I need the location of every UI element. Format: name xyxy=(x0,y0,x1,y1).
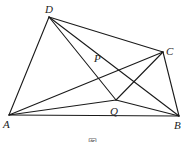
label-Q: Q xyxy=(110,105,118,117)
label-C: C xyxy=(166,45,174,57)
segments-group xyxy=(9,17,179,116)
segment-QB xyxy=(116,100,179,116)
geometry-figure: A B C D P Q 图 xyxy=(0,0,186,142)
segment-AD xyxy=(9,17,49,115)
label-P: P xyxy=(93,52,101,64)
label-A: A xyxy=(2,118,10,130)
segment-DQ xyxy=(49,17,116,100)
label-D: D xyxy=(44,3,53,15)
segment-CB xyxy=(163,52,179,116)
figure-caption: 图 xyxy=(88,138,97,142)
segment-DC xyxy=(49,17,163,52)
segment-AB xyxy=(9,115,179,116)
segment-AQ xyxy=(9,100,116,115)
segment-DB xyxy=(49,17,179,116)
segment-QC xyxy=(116,52,163,100)
label-B: B xyxy=(174,119,181,131)
